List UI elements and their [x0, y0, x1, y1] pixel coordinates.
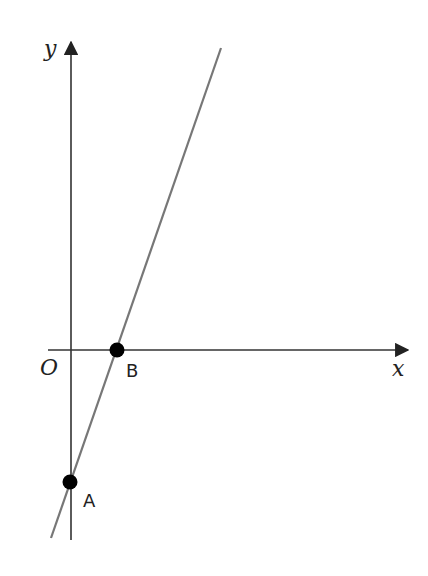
point-a-label: A: [83, 490, 96, 511]
line-ab: [51, 48, 221, 538]
point-b-label: B: [126, 360, 138, 381]
origin-label: O: [40, 355, 58, 380]
point-b: [110, 343, 125, 358]
x-axis-label: x: [392, 356, 405, 381]
y-axis-label: y: [43, 36, 57, 61]
coordinate-diagram: y x O B A: [0, 0, 428, 576]
point-a: [63, 475, 78, 490]
